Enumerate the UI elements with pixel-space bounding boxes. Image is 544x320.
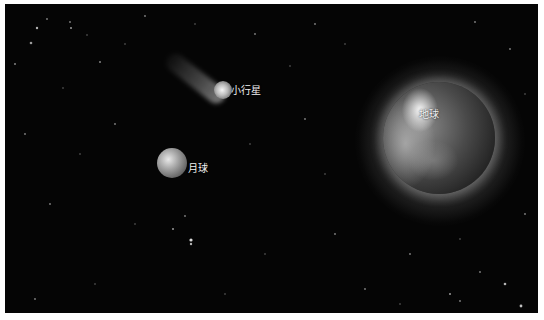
moon-label: 月球 — [188, 163, 208, 175]
space-scene: 地球 月球 小行星 — [5, 4, 538, 313]
earth-label: 地球 — [419, 109, 439, 121]
asteroid[interactable] — [214, 81, 232, 99]
moon[interactable] — [157, 148, 187, 178]
earth[interactable] — [383, 82, 495, 194]
asteroid-label: 小行星 — [231, 85, 261, 97]
